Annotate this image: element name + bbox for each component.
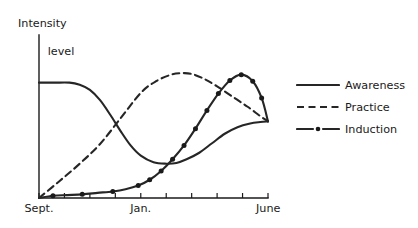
data-point-marker [182, 143, 187, 148]
series-awareness [39, 83, 268, 164]
data-point-marker [50, 193, 55, 198]
legend-label-practice: Practice [345, 101, 390, 114]
data-series-layer [39, 72, 268, 198]
legend-swatch-dashed-icon [296, 100, 340, 114]
data-point-marker [216, 91, 221, 96]
axes [39, 35, 268, 198]
series-induction [39, 72, 268, 198]
legend-label-awareness: Awareness [345, 79, 405, 92]
legend-label-induction: Induction [345, 123, 397, 136]
series-practice [39, 73, 268, 198]
data-point-marker [193, 126, 198, 131]
data-point-marker [259, 95, 264, 100]
legend-item-induction: Induction [296, 118, 414, 140]
x-tick-label-jan: Jan. [130, 202, 151, 215]
series-line-awareness [39, 83, 268, 164]
data-point-marker [239, 72, 244, 77]
chart-figure: Intensity level Sept. Jan. June Awarenes… [0, 0, 418, 228]
chart-legend: Awareness Practice Induction [296, 74, 414, 140]
data-point-marker [80, 192, 85, 197]
legend-swatch-dashdot-icon [296, 122, 340, 136]
series-line-induction [39, 75, 268, 198]
data-point-marker [170, 157, 175, 162]
data-point-marker [136, 183, 141, 188]
legend-swatch-solid-icon [296, 78, 340, 92]
data-point-marker [250, 79, 255, 84]
data-point-marker [110, 189, 115, 194]
data-point-marker [147, 177, 152, 182]
x-tick-label-sept: Sept. [25, 202, 54, 215]
legend-item-awareness: Awareness [296, 74, 414, 96]
legend-item-practice: Practice [296, 96, 414, 118]
data-point-marker [227, 78, 232, 83]
x-tick-label-june: June [256, 202, 280, 215]
data-point-marker [204, 108, 209, 113]
series-line-practice [39, 73, 268, 198]
data-point-marker [159, 168, 164, 173]
